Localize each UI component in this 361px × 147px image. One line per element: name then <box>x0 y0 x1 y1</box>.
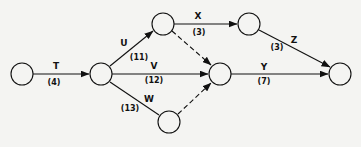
duration-U: (11) <box>130 53 148 62</box>
label-X: X <box>195 11 202 21</box>
node-5 <box>158 111 180 133</box>
duration-Y: (7) <box>258 77 271 86</box>
duration-X: (3) <box>193 28 206 37</box>
node-4 <box>209 63 231 85</box>
dummy-arrow-bottom <box>178 83 211 114</box>
node-6 <box>238 13 260 35</box>
node-3 <box>152 13 174 35</box>
label-W: W <box>144 94 154 104</box>
node-1 <box>11 63 33 85</box>
label-U: U <box>120 38 127 48</box>
network-diagram: T (4) U (11) V (12) W (13) X (3) Y (7) Z… <box>0 0 361 147</box>
duration-Z: (3) <box>271 43 284 52</box>
duration-T: (4) <box>48 78 61 87</box>
node-2 <box>90 63 112 85</box>
label-Y: Y <box>260 62 268 72</box>
label-T: T <box>53 61 60 71</box>
duration-W: (13) <box>121 104 139 113</box>
label-Z: Z <box>291 35 298 45</box>
label-V: V <box>151 61 158 71</box>
duration-V: (12) <box>145 76 163 85</box>
node-7 <box>329 63 351 85</box>
